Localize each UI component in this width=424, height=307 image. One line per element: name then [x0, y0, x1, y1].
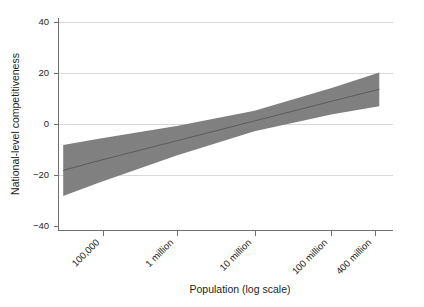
confidence-band — [63, 72, 379, 195]
y-tick-label-neg20: −20 — [33, 169, 49, 180]
y-tick-label-0: 0 — [44, 118, 49, 129]
x-tick-label-400m: 400 million — [334, 237, 374, 277]
y-axis-title: National-level competitiveness — [9, 53, 21, 195]
x-tick-label-100k: 100,000 — [69, 237, 101, 269]
y-tick-label-20: 20 — [38, 67, 49, 78]
x-axis-title: Population (log scale) — [190, 283, 291, 295]
chart-canvas: 40 20 0 −20 −40 100,000 1 million 10 mil… — [0, 0, 424, 307]
x-tick-label-100m: 100 million — [290, 237, 330, 277]
y-axis-ticks: 40 20 0 −20 −40 — [33, 16, 58, 231]
x-tick-label-10m: 10 million — [217, 237, 253, 273]
chart-figure: 40 20 0 −20 −40 100,000 1 million 10 mil… — [0, 0, 424, 307]
x-tick-label-1m: 1 million — [143, 237, 175, 269]
y-tick-label-40: 40 — [38, 16, 49, 27]
y-tick-label-neg40: −40 — [33, 220, 49, 231]
x-axis-ticks: 100,000 1 million 10 million 100 million… — [69, 230, 375, 277]
